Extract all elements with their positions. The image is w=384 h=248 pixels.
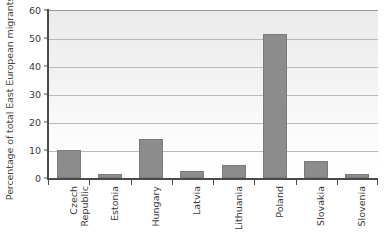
bar-slot (48, 10, 89, 178)
bars-layer (48, 10, 378, 178)
bar-poland[interactable] (263, 34, 287, 178)
bar-slot (254, 10, 295, 178)
y-axis-title: Percentage of total East European migran… (0, 0, 20, 196)
x-tick-mark (254, 180, 255, 185)
x-axis-category-labels: CzechRepublicEstoniaHungaryLatviaLithuan… (48, 186, 378, 248)
bar-lithuania[interactable] (222, 165, 246, 178)
y-tick-label: 0 (35, 173, 41, 184)
bar-slot (172, 10, 213, 178)
bar-estonia[interactable] (98, 174, 122, 178)
x-tick-mark (89, 180, 90, 185)
x-category-label-text: Hungary (151, 186, 162, 227)
bar-slot (213, 10, 254, 178)
bar-chart: Percentage of total East European migran… (0, 0, 384, 248)
x-tick-mark (172, 180, 173, 185)
x-tick-mark (296, 180, 297, 185)
x-tick-mark (213, 180, 214, 185)
x-category-label-text: Estonia (110, 186, 121, 221)
bar-czech-republic[interactable] (57, 150, 81, 178)
bar-latvia[interactable] (180, 171, 204, 178)
y-tick-label: 50 (29, 33, 41, 44)
y-tick-label: 30 (29, 89, 41, 100)
x-category-label-text: Latvia (192, 186, 203, 215)
y-axis-title-text: Percentage of total East European migran… (5, 0, 16, 200)
y-tick-label: 40 (29, 61, 41, 72)
bar-slovakia[interactable] (304, 161, 328, 178)
y-tick-label: 10 (29, 145, 41, 156)
x-category-label: Slovenia (326, 186, 384, 248)
bar-hungary[interactable] (139, 139, 163, 178)
bar-slot (337, 10, 378, 178)
x-category-label-text: Lithuania (234, 186, 245, 230)
bar-slovenia[interactable] (345, 174, 369, 178)
y-axis-tick-labels: 0102030405060 (20, 10, 44, 178)
x-tick-mark (337, 180, 338, 185)
x-tick-mark (131, 180, 132, 185)
bar-slot (296, 10, 337, 178)
x-tick-mark (48, 180, 49, 185)
x-category-label-text: Poland (275, 186, 286, 218)
bar-slot (131, 10, 172, 178)
x-category-label-text: Slovakia (316, 186, 327, 226)
x-axis-tick-marks (48, 180, 378, 185)
y-tick-label: 20 (29, 117, 41, 128)
y-tick-label: 60 (29, 5, 41, 16)
x-tick-mark (377, 180, 378, 185)
bar-slot (89, 10, 130, 178)
x-category-label-text: Slovenia (357, 186, 368, 226)
